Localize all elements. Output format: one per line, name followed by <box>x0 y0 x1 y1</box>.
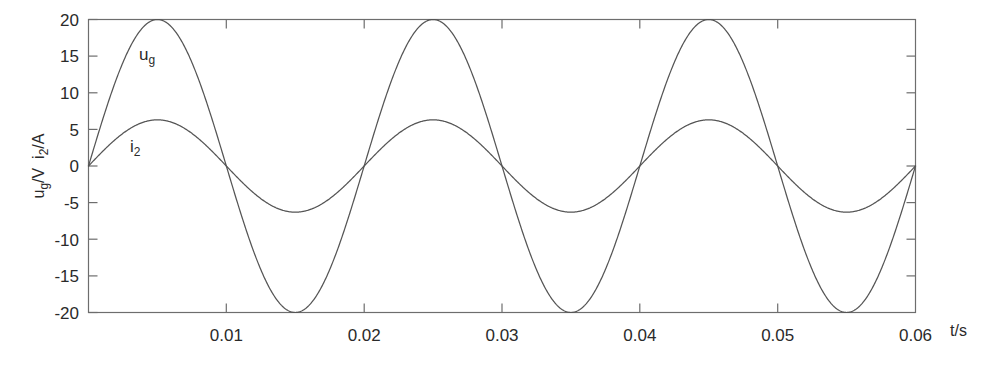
y-tick-label-20: 20 <box>60 11 79 30</box>
curve-label-ug-base: u <box>139 45 148 64</box>
curve-label-ug-sub: g <box>148 53 155 67</box>
x-tick-label-001: 0.01 <box>210 326 243 345</box>
y-tick-label-15: 15 <box>60 47 79 66</box>
curve-label-i2-sub: 2 <box>134 145 141 159</box>
x-tick-label-006: 0.06 <box>899 326 932 345</box>
x-tick-label-002: 0.02 <box>348 326 381 345</box>
y-axis-title-i2-unit: /A <box>30 133 47 148</box>
y-tick-label-neg5: -5 <box>64 194 79 213</box>
y-tick-label-neg10: -10 <box>54 231 79 250</box>
y-axis-title-ug-sub: g <box>37 183 51 190</box>
y-tick-label-neg20: -20 <box>54 304 79 323</box>
y-axis-title-ug-unit: /V <box>30 167 47 182</box>
y-tick-label-10: 10 <box>60 84 79 103</box>
y-tick-label-5: 5 <box>70 121 79 140</box>
waveform-chart: 20 15 10 5 0 -5 -10 -15 -20 0.01 0.02 0.… <box>0 0 999 366</box>
y-tick-label-0: 0 <box>70 157 79 176</box>
y-tick-label-neg15: -15 <box>54 267 79 286</box>
x-tick-label-003: 0.03 <box>485 326 518 345</box>
x-tick-label-005: 0.05 <box>761 326 794 345</box>
y-axis-title-gap <box>30 159 47 168</box>
y-axis-title-ug-base: u <box>30 190 47 199</box>
x-axis-title: t/s <box>950 322 967 339</box>
x-tick-label-004: 0.04 <box>623 326 656 345</box>
